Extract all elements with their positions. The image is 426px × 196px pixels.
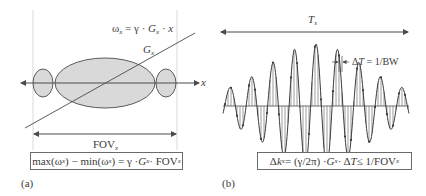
fa-s4: x — [178, 157, 181, 165]
fov-text: FOV — [93, 138, 115, 150]
fa-p2: ) − min(ω — [65, 155, 108, 167]
fa-p4: · FOV — [149, 155, 177, 167]
fb-s3: x — [396, 157, 399, 165]
omega-eq-dot: · — [159, 22, 168, 34]
fb-g: G — [327, 155, 335, 167]
ts-label: Ts — [308, 14, 317, 27]
fb-p1: Δ — [270, 155, 277, 167]
fb-p3: · Δ — [338, 155, 351, 167]
panel-b-caption: (b) — [222, 178, 235, 189]
fov-subscript: x — [115, 144, 118, 152]
fb-p4: ≤ 1/FOV — [357, 155, 396, 167]
ts-sub: s — [314, 19, 317, 27]
gradient-symbol: G — [148, 22, 156, 34]
dt-rest: = 1/BW — [364, 56, 399, 67]
fa-p1: max(ω — [32, 155, 62, 167]
fb-p2: = (γ/2π) · — [285, 155, 327, 167]
dt-label: ΔT = 1/BW — [352, 57, 399, 67]
sampling-formula-box: Δkx = (γ/2π) · Gx · ΔT ≤ 1/FOVx — [257, 152, 412, 170]
fov-label: FOVx — [93, 139, 118, 152]
panel-a-caption: (a) — [21, 178, 33, 189]
gradient-label-g: G — [143, 43, 151, 55]
panel-b-graphic — [221, 32, 409, 167]
gradient-label: Gx — [143, 44, 154, 57]
x-axis-label: x — [201, 77, 206, 88]
omega-eq-part: = γ · — [122, 22, 148, 34]
bandwidth-formula-box: max(ωx) − min(ωx) = γ · Gx · FOVx — [30, 152, 183, 170]
fa-g: G — [138, 155, 146, 167]
omega-equation: ωx = γ · Gx · x — [112, 23, 173, 36]
gradient-label-sub: x — [151, 49, 154, 57]
position-symbol: x — [168, 22, 173, 34]
fa-p3: ) = γ · — [112, 155, 139, 167]
